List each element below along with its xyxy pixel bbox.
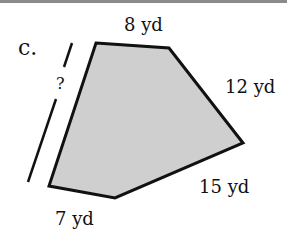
unknown-side-line-upper — [64, 43, 72, 67]
side-label-bottom: 7 yd — [55, 208, 94, 229]
side-label-upper-right: 12 yd — [225, 76, 275, 97]
pentagon-figure: c. ? 8 yd 12 yd 15 yd 7 yd — [0, 0, 287, 239]
side-label-top: 8 yd — [124, 14, 163, 35]
unknown-side-label: ? — [56, 74, 65, 93]
diagram-canvas: c. ? 8 yd 12 yd 15 yd 7 yd — [0, 0, 287, 239]
problem-label: c. — [18, 35, 37, 60]
side-label-lower-right: 15 yd — [199, 176, 249, 197]
unknown-side-line-lower — [28, 99, 56, 182]
pentagon-shape — [49, 43, 243, 198]
